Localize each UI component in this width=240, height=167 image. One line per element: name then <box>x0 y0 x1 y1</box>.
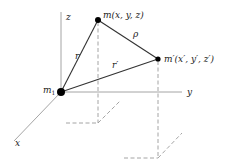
point-m-prime <box>155 56 160 61</box>
m-y-projection <box>98 101 120 123</box>
m-prime-label: m′(x′, y′, z′) <box>164 54 215 64</box>
x-axis <box>14 92 61 141</box>
point-m1 <box>57 88 65 96</box>
m-label: m(x, y, z) <box>103 10 144 20</box>
point-m <box>95 17 101 23</box>
gravitation-diagram: z y x m1 m(x, y, z) m′(x′, y′, z′) r r′ … <box>0 0 240 167</box>
segment-rho <box>98 20 158 59</box>
mprime-y-projection <box>158 133 182 158</box>
r-label: r <box>75 51 80 61</box>
y-axis-label: y <box>186 87 193 97</box>
m1-label: m1 <box>43 85 55 96</box>
x-axis-label: x <box>15 138 20 148</box>
r-prime-label: r′ <box>112 60 118 70</box>
z-axis-label: z <box>65 12 71 22</box>
rho-label: ρ <box>132 29 139 39</box>
